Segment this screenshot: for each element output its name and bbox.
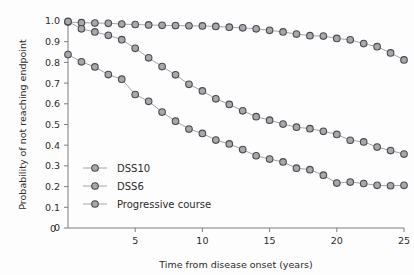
x-tick-label: 20 xyxy=(331,235,343,246)
data-point xyxy=(334,180,341,187)
y-tick-label: 0.6 xyxy=(45,98,60,109)
data-point xyxy=(239,108,246,115)
data-point xyxy=(145,55,152,62)
data-point xyxy=(239,146,246,153)
data-point xyxy=(387,147,394,154)
data-point xyxy=(401,57,408,64)
data-point xyxy=(186,81,193,88)
y-tick-label: 0.5 xyxy=(45,119,60,130)
data-point xyxy=(145,22,152,29)
data-point xyxy=(92,64,99,71)
data-point xyxy=(172,118,179,125)
data-point xyxy=(159,22,166,29)
data-point xyxy=(293,31,300,38)
data-point xyxy=(280,159,287,166)
data-point xyxy=(360,180,367,187)
y-tick-label: 0.2 xyxy=(45,181,60,192)
legend-label: DSS6 xyxy=(117,181,144,192)
legend-marker-icon xyxy=(92,201,99,208)
data-point xyxy=(186,126,193,133)
data-point xyxy=(92,20,99,27)
data-point xyxy=(334,131,341,138)
data-point xyxy=(172,72,179,79)
data-point xyxy=(387,182,394,189)
data-point xyxy=(374,43,381,50)
data-point xyxy=(199,23,206,30)
data-point xyxy=(199,88,206,95)
y-axis-title: Probability of not reaching endpoint xyxy=(17,39,28,210)
data-point xyxy=(105,71,112,78)
data-point xyxy=(347,37,354,44)
series-dss6 xyxy=(65,18,408,157)
legend-label: DSS10 xyxy=(117,163,150,174)
survival-curve-plot: 00.10.20.30.40.50.60.70.80.91.0051015202… xyxy=(0,0,414,275)
data-point xyxy=(320,172,327,179)
y-tick-label: 0.3 xyxy=(45,160,60,171)
data-point xyxy=(78,58,85,65)
data-point xyxy=(253,113,260,120)
data-point xyxy=(307,166,314,173)
data-point xyxy=(65,18,72,25)
data-point xyxy=(266,156,273,163)
data-point xyxy=(334,35,341,42)
x-tick-label: 25 xyxy=(398,235,410,246)
y-tick-label: 0.9 xyxy=(45,36,60,47)
chart-figure: 00.10.20.30.40.50.60.70.80.91.0051015202… xyxy=(0,0,414,275)
series-dss10 xyxy=(65,19,408,63)
data-point xyxy=(320,33,327,40)
data-point xyxy=(253,152,260,159)
data-point xyxy=(132,21,139,28)
data-point xyxy=(307,32,314,39)
data-point xyxy=(159,109,166,116)
data-point xyxy=(132,91,139,98)
data-point xyxy=(266,117,273,124)
data-point xyxy=(293,124,300,131)
data-point xyxy=(266,27,273,34)
y-tick-label: 0.1 xyxy=(45,202,60,213)
data-point xyxy=(213,23,220,30)
data-point xyxy=(387,50,394,57)
data-point xyxy=(307,125,314,132)
data-point xyxy=(280,121,287,128)
data-point xyxy=(65,51,72,58)
legend-marker-icon xyxy=(92,183,99,190)
legend-item-dss10[interactable]: DSS10 xyxy=(83,163,150,174)
x-axis-title: Time from disease onset (years) xyxy=(158,259,312,270)
data-point xyxy=(320,128,327,135)
data-point xyxy=(213,137,220,144)
legend-label: Progressive course xyxy=(117,199,211,210)
data-point xyxy=(360,40,367,47)
data-point xyxy=(105,20,112,27)
data-point xyxy=(374,182,381,189)
data-point xyxy=(118,36,125,43)
y-tick-label: 0.8 xyxy=(45,57,60,68)
x-tick-label: 10 xyxy=(196,235,208,246)
data-point xyxy=(159,63,166,70)
data-point xyxy=(186,22,193,29)
legend-item-progressive-course[interactable]: Progressive course xyxy=(83,199,211,210)
data-point xyxy=(253,26,260,33)
data-point xyxy=(226,24,233,31)
data-point xyxy=(280,29,287,36)
data-point xyxy=(199,130,206,137)
data-point xyxy=(401,182,408,189)
data-point xyxy=(105,32,112,39)
data-point xyxy=(92,29,99,36)
data-point xyxy=(360,139,367,146)
data-point xyxy=(374,144,381,151)
data-point xyxy=(347,179,354,186)
data-point xyxy=(118,21,125,28)
y-tick-label: 0.4 xyxy=(45,140,60,151)
data-point xyxy=(239,25,246,32)
x-tick-label: 15 xyxy=(264,235,276,246)
data-point xyxy=(226,141,233,148)
data-point xyxy=(78,26,85,33)
legend-item-dss6[interactable]: DSS6 xyxy=(83,181,144,192)
x-tick-label: 5 xyxy=(132,235,138,246)
data-point xyxy=(347,137,354,144)
x-tick-label: 0 xyxy=(50,223,56,234)
data-point xyxy=(132,45,139,52)
data-point xyxy=(145,98,152,105)
data-point xyxy=(401,151,408,158)
data-point xyxy=(78,19,85,26)
